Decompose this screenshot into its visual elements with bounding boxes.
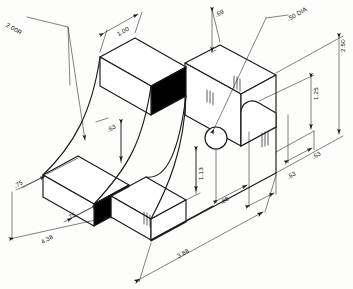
drawing-sheet: 2.00R 1.00 .69 .50 DIA 2.50 1.25 .63 1.1… [0,0,353,289]
through-hole [205,127,227,149]
dim-label-height-1-25: 1.25 [313,87,319,100]
dim-2-50 [276,36,343,173]
dim-label-height-1-13: 1.13 [198,167,204,180]
dim-0-63-far-right [288,115,314,163]
dim-label-height-2-50: 2.50 [340,39,346,52]
isometric-drawing-canvas [0,0,353,289]
dim-radius-2-00 [27,17,85,140]
upper-arm [100,38,186,115]
bracket-solid [43,38,276,241]
